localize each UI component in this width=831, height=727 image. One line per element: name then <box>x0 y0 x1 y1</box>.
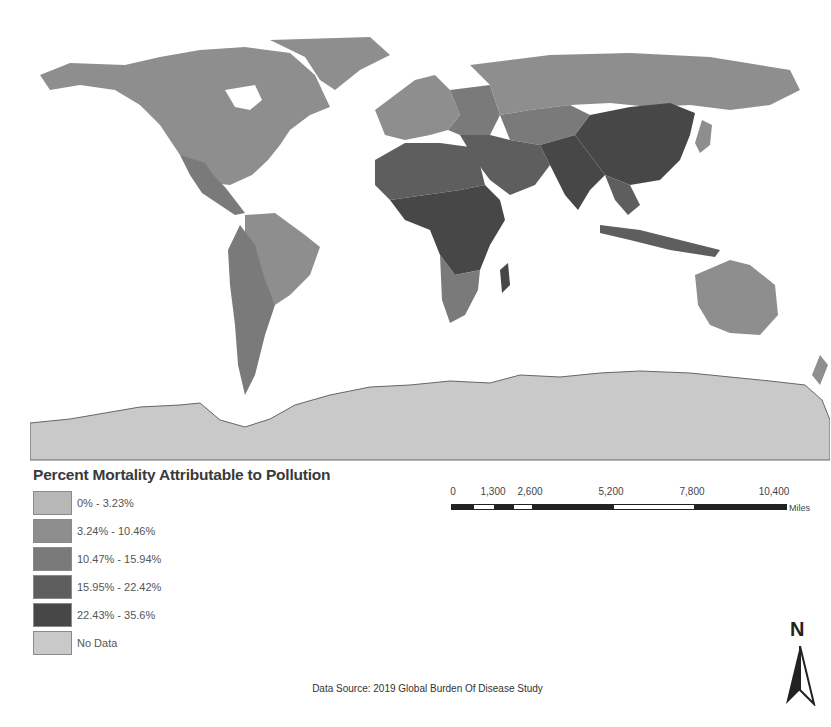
legend-item: 10.47% - 15.94% <box>33 545 161 573</box>
legend-swatch <box>33 491 72 515</box>
legend-label: 10.47% - 15.94% <box>77 553 161 565</box>
legend-item: No Data <box>33 629 161 657</box>
region-australia <box>695 260 778 335</box>
legend-swatch <box>33 547 72 571</box>
region-madagascar <box>500 263 510 293</box>
scale-unit: Miles <box>789 503 810 513</box>
legend-swatch <box>33 519 72 543</box>
region-western-europe <box>375 75 460 140</box>
scale-tick: 7,800 <box>679 486 704 497</box>
scale-tick: 5,200 <box>598 486 623 497</box>
legend-label: No Data <box>77 637 117 649</box>
legend-swatch <box>33 575 72 599</box>
legend-item: 0% - 3.23% <box>33 489 161 517</box>
legend-label: 3.24% - 10.46% <box>77 525 155 537</box>
scale-tick: 0 <box>450 486 456 497</box>
world-map <box>30 35 830 465</box>
region-sub-saharan-africa <box>390 185 505 275</box>
region-russia <box>470 53 800 115</box>
legend-item: 22.43% - 35.6% <box>33 601 161 629</box>
scale-tick: 1,300 <box>480 486 505 497</box>
legend-label: 15.95% - 22.42% <box>77 581 161 593</box>
scale-tick: 2,600 <box>517 486 542 497</box>
scale-tick: 10,400 <box>759 486 790 497</box>
legend-title: Percent Mortality Attributable to Pollut… <box>33 466 330 484</box>
scale-bar-track <box>451 504 787 510</box>
legend-item: 15.95% - 22.42% <box>33 573 161 601</box>
region-new-zealand <box>812 355 828 385</box>
legend: 0% - 3.23% 3.24% - 10.46% 10.47% - 15.94… <box>33 489 161 657</box>
legend-item: 3.24% - 10.46% <box>33 517 161 545</box>
legend-swatch <box>33 631 72 655</box>
data-source-caption: Data Source: 2019 Global Burden Of Disea… <box>0 683 831 694</box>
legend-label: 22.43% - 35.6% <box>77 609 155 621</box>
north-arrow-icon <box>782 646 818 706</box>
legend-swatch <box>33 603 72 627</box>
region-japan <box>695 120 712 153</box>
scale-bar: 0 1,300 2,600 5,200 7,800 10,400 Miles <box>449 486 831 526</box>
legend-label: 0% - 3.23% <box>77 497 134 509</box>
region-indonesia <box>600 225 720 257</box>
data-source-text: Data Source: 2019 Global Burden Of Disea… <box>312 683 543 694</box>
north-label: N <box>790 618 804 641</box>
region-antarctica <box>30 371 830 460</box>
north-arrow: N <box>782 618 818 708</box>
